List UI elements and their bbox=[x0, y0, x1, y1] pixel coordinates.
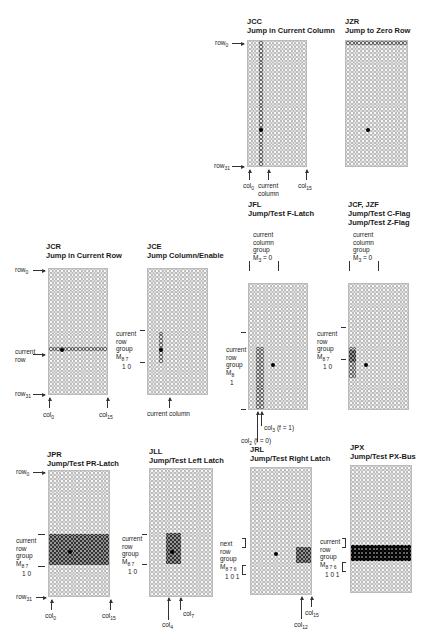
grid-cell bbox=[68, 592, 72, 596]
grid-cell bbox=[404, 405, 408, 409]
grid-cell bbox=[208, 521, 212, 525]
grid-cell bbox=[103, 367, 107, 371]
group-bracket bbox=[342, 538, 346, 548]
grid-cell bbox=[407, 588, 411, 592]
col3-label: col3 (f = 1) bbox=[264, 424, 294, 435]
grid-cell bbox=[407, 553, 411, 557]
grid-cell bbox=[303, 300, 307, 304]
current-column-label: current column bbox=[147, 410, 190, 418]
panel-title: Jump to Zero Row bbox=[345, 26, 410, 35]
grid-cell bbox=[385, 553, 389, 557]
grid-cell bbox=[404, 343, 408, 347]
grid-cell bbox=[403, 100, 407, 104]
grid-cell bbox=[400, 553, 404, 557]
grid-cell bbox=[53, 487, 57, 491]
grid-cell bbox=[300, 496, 304, 500]
grid-cell bbox=[407, 490, 411, 494]
grid-cell bbox=[303, 343, 307, 347]
group-start-tick bbox=[341, 327, 346, 328]
address-grid bbox=[350, 465, 412, 593]
grid-cell bbox=[270, 492, 274, 496]
arrow-up-icon bbox=[51, 600, 52, 610]
arrow-up-icon bbox=[169, 398, 170, 408]
grid-cell bbox=[370, 588, 374, 592]
grid-cell bbox=[288, 100, 292, 104]
group-start-tick bbox=[142, 534, 147, 535]
grid-cell bbox=[385, 494, 389, 498]
col0-label: col0 bbox=[243, 182, 254, 193]
grid-cell bbox=[400, 494, 404, 498]
grid-cell bbox=[307, 590, 311, 594]
group-bracket bbox=[378, 261, 379, 271]
row0-label: row0 bbox=[16, 468, 29, 479]
grid-cell bbox=[375, 343, 379, 347]
grid-cell bbox=[68, 530, 72, 534]
col0-label: col0 bbox=[43, 411, 54, 422]
grid-cell bbox=[60, 367, 64, 371]
grid-cell bbox=[288, 57, 292, 61]
grid-cell bbox=[375, 405, 379, 409]
arrow-up-icon bbox=[249, 170, 250, 180]
row31-label: row31 bbox=[16, 593, 32, 604]
arrow-up-icon bbox=[261, 412, 262, 426]
grid-cell bbox=[302, 57, 306, 61]
grid-cell bbox=[270, 555, 274, 559]
grid-cell bbox=[68, 569, 72, 573]
panel-code: JZR bbox=[345, 17, 359, 26]
grid-cell bbox=[285, 555, 289, 559]
grid-cell bbox=[174, 328, 178, 332]
panel-code: JCE bbox=[147, 242, 162, 251]
arrow-up-icon bbox=[311, 597, 312, 607]
grid-cell bbox=[270, 496, 274, 500]
grid-cell bbox=[260, 343, 264, 347]
group-bracket bbox=[349, 261, 350, 271]
grid-cell bbox=[375, 300, 379, 304]
address-grid bbox=[250, 467, 312, 595]
grid-cell bbox=[355, 557, 359, 561]
grid-cell bbox=[103, 285, 107, 289]
address-grid bbox=[247, 40, 307, 167]
panel-title: Jump in Current Column bbox=[247, 26, 335, 35]
grid-cell bbox=[300, 590, 304, 594]
grid-cell bbox=[285, 590, 289, 594]
panel-title: Jump/Test Left Latch bbox=[149, 456, 224, 465]
grid-cell bbox=[404, 382, 408, 386]
row-group-label: currentrowgroup M8 1 bbox=[226, 346, 246, 387]
arrow-icon bbox=[33, 270, 45, 271]
grid-cell bbox=[355, 490, 359, 494]
grid-cell bbox=[404, 300, 408, 304]
grid-cell bbox=[403, 57, 407, 61]
address-grid bbox=[149, 468, 213, 597]
col12-label: col12 bbox=[294, 621, 308, 632]
group-start-tick bbox=[241, 332, 246, 333]
grid-cell bbox=[285, 492, 289, 496]
col15-label: col15 bbox=[102, 612, 116, 623]
grid-cell bbox=[307, 492, 311, 496]
grid-cell bbox=[174, 390, 178, 394]
grid-cell bbox=[60, 328, 64, 332]
grid-cell bbox=[83, 569, 87, 573]
col0-label: col0 bbox=[45, 612, 56, 623]
grid-cell bbox=[60, 390, 64, 394]
col15-label: col15 bbox=[305, 609, 319, 620]
group-bracket bbox=[242, 565, 246, 575]
grid-cell bbox=[303, 405, 307, 409]
grid-cell bbox=[392, 57, 396, 61]
grid-cell bbox=[255, 590, 259, 594]
grid-cell bbox=[162, 592, 166, 596]
grid-cell bbox=[385, 557, 389, 561]
row0-label: row0 bbox=[215, 39, 228, 50]
panel-title: Jump/Test Right Latch bbox=[250, 454, 330, 463]
grid-cell bbox=[260, 405, 264, 409]
grid-cell bbox=[370, 494, 374, 498]
grid-cell bbox=[289, 405, 293, 409]
grid-cell bbox=[355, 588, 359, 592]
row-group-label: nextrowgroup M8 7 6 1 0 1 bbox=[220, 540, 239, 581]
panel-code: JCF, JZF bbox=[348, 200, 379, 209]
grid-cell bbox=[203, 367, 207, 371]
group-bracket bbox=[242, 538, 246, 548]
group-bracket bbox=[278, 261, 279, 271]
row-group-label: currentrowgroup M8 7 6 1 0 1 bbox=[320, 538, 340, 579]
grid-cell bbox=[162, 521, 166, 525]
grid-cell bbox=[105, 487, 109, 491]
